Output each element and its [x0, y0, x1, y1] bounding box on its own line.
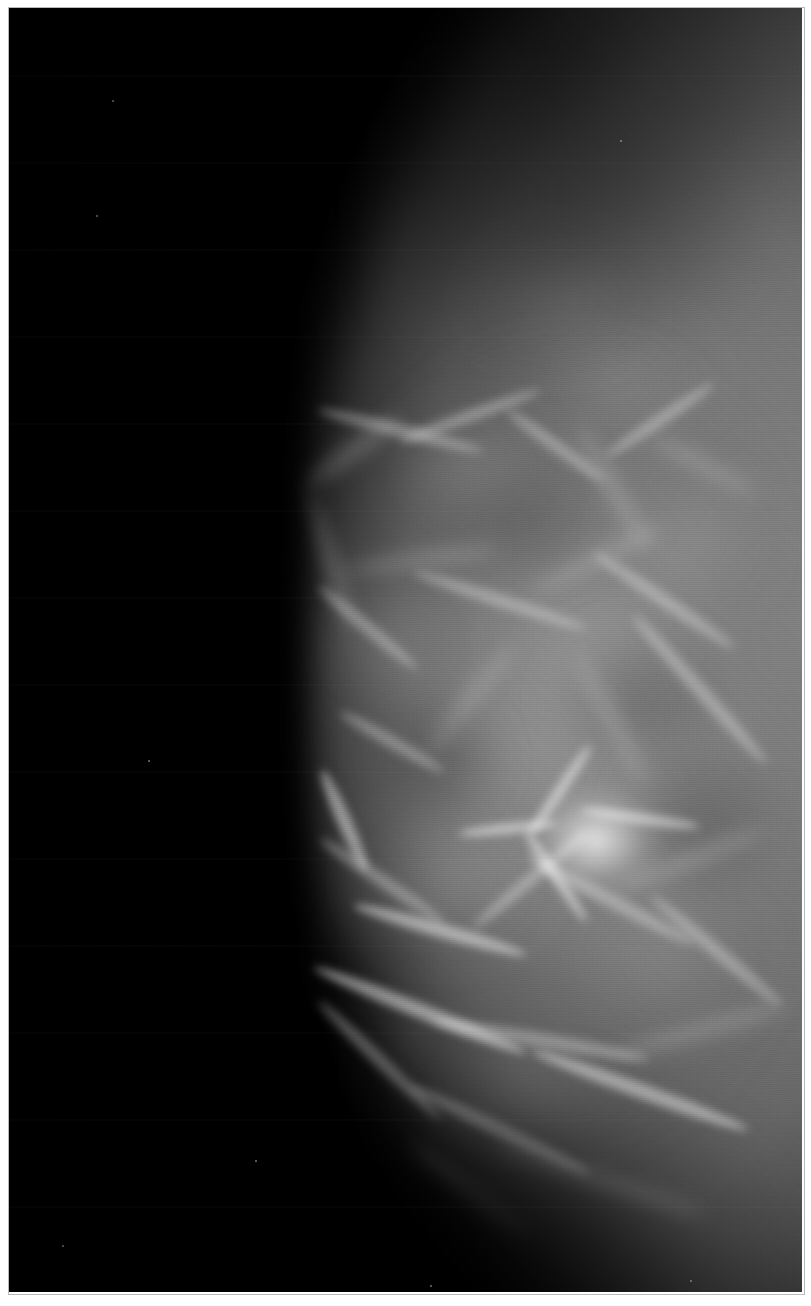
- dust-speck: [690, 1280, 692, 1282]
- dust-speck: [430, 1285, 432, 1287]
- dust-speck: [255, 1160, 257, 1162]
- mammogram-viewer: [0, 0, 811, 1306]
- dust-speck-layer: [9, 8, 802, 1292]
- dust-speck: [62, 1245, 64, 1247]
- dust-speck: [148, 760, 150, 762]
- dust-speck: [96, 215, 98, 217]
- radiograph-plate: [9, 8, 802, 1292]
- dust-speck: [112, 100, 114, 102]
- dust-speck: [620, 140, 622, 142]
